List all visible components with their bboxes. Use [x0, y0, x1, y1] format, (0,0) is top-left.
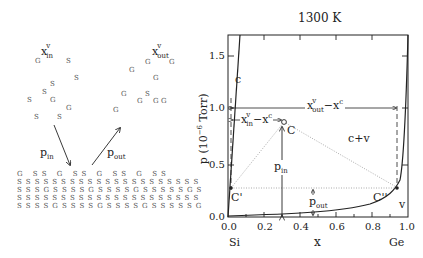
x-axis-label: x — [314, 235, 321, 249]
x-tick-0.6: 0.6 — [329, 221, 345, 232]
region-cv-label: c+v — [348, 132, 370, 145]
point-c2-label: C'' — [373, 191, 387, 204]
y-tick-0.5: 0.5 — [209, 159, 225, 170]
x-tick-0.8: 0.8 — [365, 221, 381, 232]
y-tick-1.0: 1.0 — [209, 102, 225, 113]
x-tick-0.2: 0.2 — [257, 221, 273, 232]
chart-title: 1300 K — [298, 11, 341, 25]
p-out-arrow — [92, 128, 120, 165]
x-tick-0.0: 0.0 — [221, 221, 237, 232]
point-c-label: C — [287, 124, 295, 137]
p-in-plot-label: pin — [274, 160, 288, 175]
x-out-diff-label: xvout−xc — [305, 97, 345, 114]
solidus-curve — [228, 35, 240, 217]
point-c-marker — [282, 120, 287, 125]
point-c1-label: C' — [231, 191, 242, 204]
region-c-label: c — [235, 73, 241, 86]
ge-label: Ge — [389, 236, 404, 249]
x-tick-1.0: 1.0 — [399, 221, 415, 232]
region-v-label: v — [399, 198, 405, 211]
point-c2-marker — [395, 186, 399, 190]
y-axis-label: p (10−6 Torr) — [196, 84, 210, 174]
dotted-tie-lines — [231, 122, 398, 188]
si-label: Si — [229, 236, 240, 249]
y-tick-1.5: 1.5 — [209, 50, 225, 61]
x-in-diff-label: xvin−xc — [240, 111, 273, 128]
p-in-arrow — [54, 125, 70, 165]
point-c1-marker — [229, 186, 233, 190]
p-out-plot-label: pout — [309, 195, 328, 210]
x-tick-0.4: 0.4 — [293, 221, 309, 232]
